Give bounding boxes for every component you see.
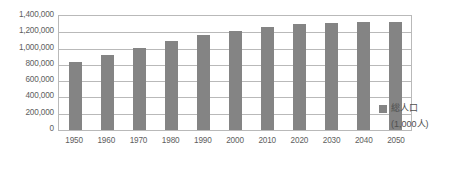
y-axis: 0200,000400,000600,000800,0001,000,0001,… [0, 0, 57, 169]
population-bar-chart: 0200,000400,000600,000800,0001,000,0001,… [0, 0, 463, 169]
bar-1970[interactable] [133, 48, 146, 130]
bar-2000[interactable] [229, 31, 242, 130]
legend-swatch-icon [379, 105, 387, 113]
chart-legend: 総人口 (1,000人) [379, 103, 463, 130]
bar-slot [219, 16, 251, 130]
x-axis-tick-label: 2020 [283, 136, 315, 152]
x-axis-tick-label: 1990 [187, 136, 219, 152]
bar-1960[interactable] [101, 55, 114, 130]
y-axis-tick-label: 400,000 [25, 92, 54, 100]
legend-unit-label: (1,000人) [391, 119, 463, 130]
x-axis-tick-label: 2030 [316, 136, 348, 152]
bar-2010[interactable] [261, 27, 274, 130]
x-axis-tick-label: 2000 [219, 136, 251, 152]
bar-slot [91, 16, 123, 130]
bar-slot [347, 16, 379, 130]
x-axis-tick-label: 1980 [155, 136, 187, 152]
x-axis-tick-label: 2050 [380, 136, 412, 152]
bar-1990[interactable] [197, 35, 210, 130]
legend-entry-total-population: 総人口 [379, 103, 463, 114]
x-axis-tick-label: 1970 [122, 136, 154, 152]
y-axis-tick-label: 600,000 [25, 76, 54, 84]
legend-series-label: 総人口 [391, 103, 418, 114]
bar-slot [59, 16, 91, 130]
y-axis-tick-label: 800,000 [25, 60, 54, 68]
y-axis-tick-label: 200,000 [25, 109, 54, 117]
bar-slot [283, 16, 315, 130]
bars-layer [59, 16, 411, 130]
bar-slot [315, 16, 347, 130]
x-axis-tick-label: 1950 [58, 136, 90, 152]
y-axis-tick-label: 0 [50, 125, 54, 133]
bar-1950[interactable] [69, 62, 82, 130]
y-axis-tick-label: 1,200,000 [19, 27, 54, 35]
x-axis-tick-label: 2010 [251, 136, 283, 152]
bar-2020[interactable] [293, 24, 306, 130]
bar-slot [155, 16, 187, 130]
x-axis: 1950196019701980199020002010202020302040… [58, 136, 412, 152]
x-axis-tick-label: 2040 [348, 136, 380, 152]
y-axis-tick-label: 1,000,000 [19, 43, 54, 51]
bar-2030[interactable] [325, 23, 338, 130]
x-axis-tick-label: 1960 [90, 136, 122, 152]
bar-1980[interactable] [165, 41, 178, 130]
plot-area [58, 15, 412, 131]
bar-2040[interactable] [357, 22, 370, 130]
bar-slot [187, 16, 219, 130]
y-axis-tick-label: 1,400,000 [19, 11, 54, 19]
bar-slot [123, 16, 155, 130]
bar-slot [251, 16, 283, 130]
